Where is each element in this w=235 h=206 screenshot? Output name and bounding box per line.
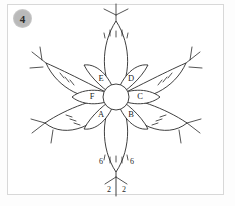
figure-number-badge: 4: [13, 9, 32, 28]
figure-root: 4: [0, 0, 235, 206]
inner-petal-label-F: F: [90, 91, 95, 101]
inner-petal-label-B: B: [128, 109, 134, 119]
count-left-label: 6: [99, 157, 103, 166]
inner-petal-label-A: A: [98, 109, 105, 119]
inner-petal-label-D: D: [128, 73, 134, 83]
stem-right-label: 2: [122, 185, 126, 194]
central-circle: [103, 84, 129, 110]
floral-diagram-svg: D E C F B: [0, 0, 235, 206]
inner-petal-label-C: C: [137, 91, 143, 101]
inner-petal-label-E: E: [98, 73, 103, 83]
count-right-label: 6: [130, 157, 134, 166]
stem-left-label: 2: [107, 185, 111, 194]
